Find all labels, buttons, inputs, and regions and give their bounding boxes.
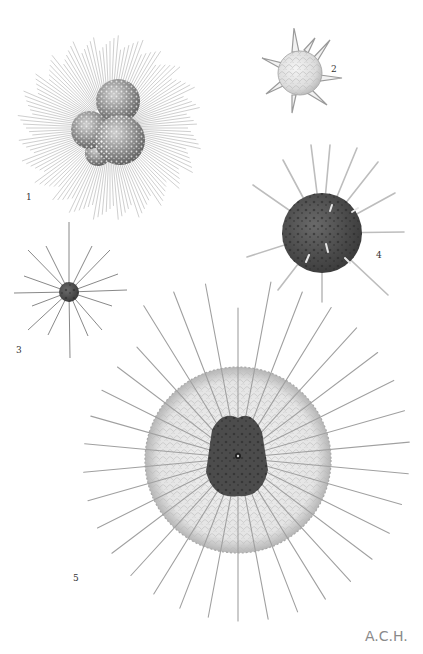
figure-4-label: 4: [376, 250, 382, 260]
chambers: [71, 79, 145, 166]
figure-4-specimen: [247, 145, 404, 302]
figure-1-specimen: [18, 35, 201, 219]
artist-signature: A.C.H.: [365, 628, 408, 644]
figure-5-label: 5: [73, 573, 79, 583]
figure-5-specimen: [84, 282, 410, 621]
illustration-plate: 1 2 3 4 5 A.C.H.: [0, 0, 423, 654]
figure-1-label: 1: [26, 192, 32, 202]
figure-3-label: 3: [16, 345, 22, 355]
figure-2-specimen: [262, 28, 342, 113]
figure-3-specimen: [14, 222, 127, 358]
figure-2-label: 2: [331, 64, 337, 74]
